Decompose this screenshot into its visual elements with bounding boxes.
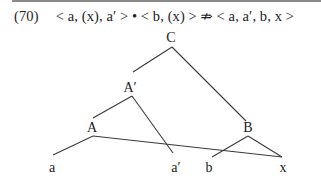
- edge-C-Aprime: [133, 47, 172, 72]
- tree-edges: [53, 47, 282, 157]
- leaf-a-prime: a′: [171, 161, 180, 175]
- leaf-b: b: [206, 161, 213, 175]
- edge-B-b: [212, 136, 248, 157]
- edge-Aprime-A: [93, 96, 132, 118]
- tree-diagram: [0, 0, 321, 182]
- leaf-a: a: [49, 161, 55, 175]
- node-A: A: [87, 121, 97, 135]
- leaf-x: x: [280, 161, 287, 175]
- edge-A-a: [53, 136, 93, 155]
- node-B: B: [243, 121, 252, 135]
- edge-C-B: [172, 47, 246, 121]
- node-C: C: [166, 31, 175, 45]
- node-A-prime: A′: [123, 81, 136, 95]
